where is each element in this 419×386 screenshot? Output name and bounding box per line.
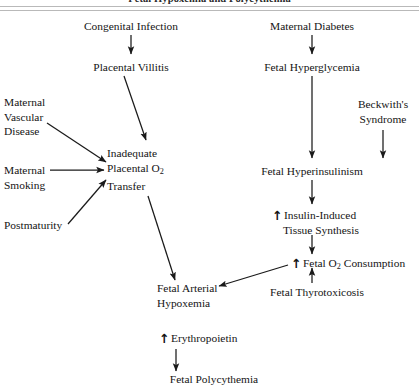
edge-postmaturity-to-transfer (68, 180, 106, 224)
title-rule-bottom (0, 10, 419, 11)
node-beckwiths-syndrome: Beckwith's Syndrome (358, 97, 408, 126)
node-inadequate-transfer-subscript: 2 (160, 167, 164, 176)
node-inadequate-transfer-line1: Inadequate (107, 146, 164, 161)
node-fetal-o2-consumption-text-post: Consumption (341, 257, 405, 269)
node-fetal-arterial-hypoxemia-line1: Fetal Arterial (157, 281, 217, 296)
node-maternal-vascular-disease-line3: Disease (4, 124, 45, 139)
node-maternal-smoking-line1: Maternal (4, 163, 45, 178)
node-inadequate-transfer-line3: Transfer (107, 179, 164, 194)
node-postmaturity: Postmaturity (4, 218, 62, 233)
node-fetal-hyperinsulinism: Fetal Hyperinsulinism (261, 164, 363, 179)
node-fetal-arterial-hypoxemia: Fetal Arterial Hypoxemia (157, 281, 217, 310)
node-inadequate-placental-o2-transfer: Inadequate Placental O2 Transfer (107, 146, 164, 194)
node-insulin-induced-tissue-synthesis: ↑Insulin-Induced Tissue Synthesis (272, 208, 359, 237)
edge-o2-consumption-to-hypoxemia (219, 265, 288, 286)
up-arrow-icon: ↑ (291, 256, 301, 271)
node-beckwiths-syndrome-line1: Beckwith's (358, 97, 408, 112)
node-fetal-hyperglycemia: Fetal Hyperglycemia (264, 60, 360, 75)
node-erythropoietin: ↑Erythropoietin (159, 331, 237, 346)
node-maternal-vascular-disease: Maternal Vascular Disease (4, 95, 45, 139)
node-beckwiths-syndrome-line2: Syndrome (358, 112, 408, 127)
node-insulin-induced-line1: ↑Insulin-Induced (272, 208, 359, 223)
edge-layer (0, 0, 419, 386)
up-arrow-icon: ↑ (272, 208, 282, 223)
title-rule-top (0, 6, 419, 7)
node-inadequate-transfer-line2: Placental O2 (107, 161, 164, 180)
node-maternal-vascular-disease-line1: Maternal (4, 95, 45, 110)
figure-fetal-hypoxemia-polycythemia: Fetal Hypoxemia and Polycythemia (0, 0, 419, 386)
node-fetal-o2-consumption: ↑Fetal O2 Consumption (291, 256, 405, 275)
up-arrow-icon: ↑ (159, 331, 169, 346)
edge-vascular-to-transfer (47, 123, 106, 162)
node-insulin-induced-line2: Tissue Synthesis (272, 223, 359, 238)
node-fetal-arterial-hypoxemia-line2: Hypoxemia (157, 296, 217, 311)
edge-villitis-to-transfer (124, 76, 146, 140)
node-maternal-smoking-line2: Smoking (4, 178, 45, 193)
node-fetal-thyrotoxicosis: Fetal Thyrotoxicosis (270, 285, 364, 300)
node-erythropoietin-text: Erythropoietin (171, 332, 237, 344)
node-maternal-vascular-disease-line2: Vascular (4, 110, 45, 125)
node-maternal-diabetes: Maternal Diabetes (270, 19, 354, 34)
node-placental-villitis: Placental Villitis (93, 60, 168, 75)
edge-transfer-to-hypoxemia (148, 196, 175, 280)
node-congenital-infection: Congenital Infection (84, 19, 178, 34)
node-inadequate-transfer-line2-text: Placental O (107, 162, 160, 174)
node-insulin-induced-line1-text: Insulin-Induced (284, 209, 356, 221)
node-fetal-o2-consumption-text: Fetal O (303, 257, 337, 269)
node-fetal-polycythemia: Fetal Polycythemia (170, 372, 258, 386)
node-maternal-smoking: Maternal Smoking (4, 163, 45, 192)
figure-title: Fetal Hypoxemia and Polycythemia (0, 0, 419, 4)
